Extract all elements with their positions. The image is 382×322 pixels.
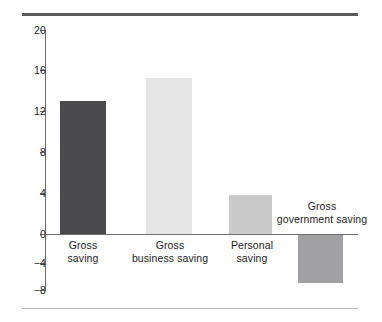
category-label-line-1: Gross: [120, 239, 220, 252]
y-tick-20: 20: [0, 30, 46, 31]
y-tick-label-neg4: −4: [12, 258, 46, 269]
category-label-personal-saving: Personal saving: [218, 239, 286, 264]
category-label-line-1: Gross: [264, 200, 380, 213]
category-label-line-1: Gross: [48, 239, 118, 252]
category-label-line-2: saving: [48, 252, 118, 265]
y-tick-label-16: 16: [12, 65, 46, 76]
y-tick-label-0: 0: [12, 229, 46, 240]
category-label-line-1: Personal: [218, 239, 286, 252]
y-tick-label-neg8: −8: [12, 285, 46, 296]
category-label-gross-business-saving: Gross business saving: [120, 239, 220, 264]
y-tick-8: 8: [0, 152, 46, 153]
y-tick-16: 16: [0, 70, 46, 71]
y-tick-12: 12: [0, 111, 46, 112]
y-tick-neg8: −8: [0, 290, 46, 291]
y-tick-label-12: 12: [12, 106, 46, 117]
y-tick-neg4: −4: [0, 263, 46, 264]
bar-chart: 20 16 12 8 4 0 −4 −8: [0, 0, 382, 322]
y-tick-0: 0: [0, 234, 46, 235]
category-label-line-2: government saving: [264, 213, 380, 226]
y-tick-label-8: 8: [12, 147, 46, 158]
category-label-line-2: saving: [218, 252, 286, 265]
y-tick-4: 4: [0, 193, 46, 194]
plot-area: 20 16 12 8 4 0 −4 −8: [0, 0, 382, 322]
category-label-gross-saving: Gross saving: [48, 239, 118, 264]
category-label-line-2: business saving: [120, 252, 220, 265]
y-tick-label-4: 4: [12, 188, 46, 199]
y-tick-label-20: 20: [12, 25, 46, 36]
bar-gross-government-saving: [298, 235, 343, 283]
bar-gross-business-saving: [146, 78, 192, 234]
category-label-gross-government-saving: Gross government saving: [264, 200, 380, 225]
bar-gross-saving: [60, 101, 106, 234]
